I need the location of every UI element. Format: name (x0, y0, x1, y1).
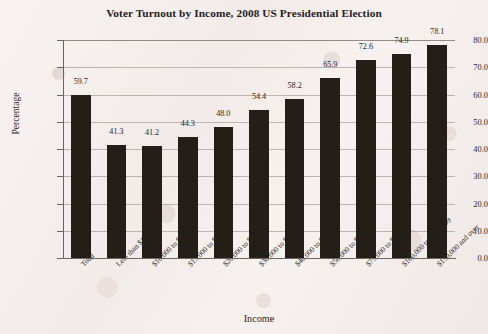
bar[interactable] (285, 99, 305, 258)
bar-value-label: 58.2 (277, 81, 313, 90)
bar[interactable] (249, 110, 269, 258)
bar-value-label: 54.4 (241, 92, 277, 101)
bar-slot: 54.4 (241, 40, 277, 258)
bar-slot: 58.2 (277, 40, 313, 258)
chart-title: Voter Turnout by Income, 2008 US Preside… (0, 7, 488, 19)
bar-slot: 41.3 (99, 40, 135, 258)
bar-value-label: 78.1 (419, 27, 455, 36)
bar-slot: 44.3 (170, 40, 206, 258)
bar[interactable] (214, 127, 234, 258)
bar-slot: 74.9 (384, 40, 420, 258)
plot-area: 59.741.341.244.348.054.458.265.972.674.9… (63, 40, 455, 258)
bar[interactable] (392, 54, 412, 258)
bar-slot: 59.7 (63, 40, 99, 258)
bar-slot: 65.9 (312, 40, 348, 258)
bar[interactable] (107, 145, 127, 258)
bar-value-label: 72.6 (348, 42, 384, 51)
bar-value-label: 48.0 (206, 109, 242, 118)
bar-value-label: 41.2 (134, 128, 170, 137)
bar-slot: 48.0 (206, 40, 242, 258)
bar-slot: 72.6 (348, 40, 384, 258)
bar[interactable] (178, 137, 198, 258)
bar-value-label: 59.7 (63, 77, 99, 86)
bar[interactable] (320, 78, 340, 258)
bar[interactable] (427, 45, 447, 258)
y-axis-line (63, 40, 64, 259)
bar-value-label: 74.9 (384, 36, 420, 45)
bar[interactable] (356, 60, 376, 258)
bar-slot: 78.1 (419, 40, 455, 258)
bar-value-label: 41.3 (99, 127, 135, 136)
bar[interactable] (71, 95, 91, 258)
x-axis-line (63, 258, 456, 259)
bar-value-label: 65.9 (312, 60, 348, 69)
x-axis-title: Income (63, 313, 455, 324)
bar[interactable] (142, 146, 162, 258)
bar-slot: 41.2 (134, 40, 170, 258)
y-axis-title: Percentage (10, 69, 21, 159)
bar-chart: Voter Turnout by Income, 2008 US Preside… (0, 0, 488, 334)
bar-value-label: 44.3 (170, 119, 206, 128)
